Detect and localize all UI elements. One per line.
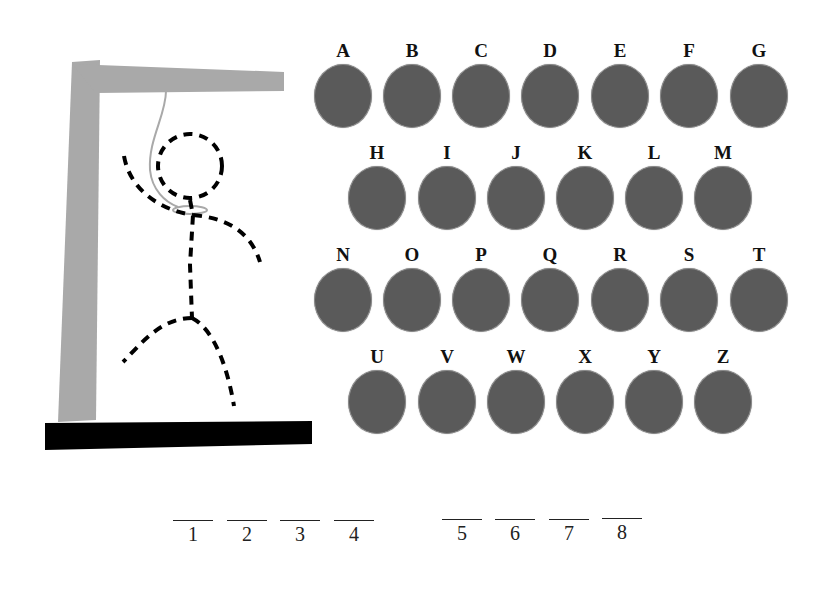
letter-key-ball[interactable] (730, 268, 788, 332)
letter-key-ball[interactable] (521, 268, 579, 332)
letter-key-y[interactable]: Y (625, 346, 683, 438)
letter-key-ball[interactable] (348, 166, 406, 230)
letter-key-label: A (314, 40, 372, 62)
letter-key-ball[interactable] (314, 64, 372, 128)
letter-key-ball[interactable] (348, 370, 406, 434)
letter-key-label: Q (521, 244, 579, 266)
letter-key-ball[interactable] (694, 166, 752, 230)
gallows-post (58, 60, 100, 422)
letter-key-label: V (418, 346, 476, 368)
letter-key-ball[interactable] (418, 370, 476, 434)
letter-key-d[interactable]: D (521, 40, 579, 132)
letter-key-label: X (556, 346, 614, 368)
letter-key-j[interactable]: J (487, 142, 545, 234)
letter-key-label: S (660, 244, 718, 266)
letter-key-ball[interactable] (487, 370, 545, 434)
letter-key-label: Y (625, 346, 683, 368)
letter-key-label: M (694, 142, 752, 164)
slot-underline (602, 518, 642, 519)
letter-key-ball[interactable] (625, 370, 683, 434)
letter-key-label: D (521, 40, 579, 62)
letter-key-ball[interactable] (383, 64, 441, 128)
letter-key-x[interactable]: X (556, 346, 614, 438)
letter-key-ball[interactable] (591, 268, 649, 332)
slot-number: 8 (602, 521, 642, 543)
letter-key-l[interactable]: L (625, 142, 683, 234)
slot-underline (227, 520, 267, 521)
letter-key-b[interactable]: B (383, 40, 441, 132)
slot-number: 5 (442, 522, 482, 544)
letter-key-label: G (730, 40, 788, 62)
letter-key-ball[interactable] (625, 166, 683, 230)
letter-key-ball[interactable] (556, 166, 614, 230)
letter-key-i[interactable]: I (418, 142, 476, 234)
letter-key-r[interactable]: R (591, 244, 649, 336)
letter-key-ball[interactable] (418, 166, 476, 230)
letter-key-q[interactable]: Q (521, 244, 579, 336)
letter-key-ball[interactable] (660, 64, 718, 128)
figure-right-leg (192, 318, 234, 406)
letter-key-label: Z (694, 346, 752, 368)
letter-key-g[interactable]: G (730, 40, 788, 132)
letter-key-n[interactable]: N (314, 244, 372, 336)
slot-underline (442, 519, 482, 520)
letter-key-z[interactable]: Z (694, 346, 752, 438)
letter-key-ball[interactable] (452, 268, 510, 332)
letter-key-a[interactable]: A (314, 40, 372, 132)
letter-key-label: U (348, 346, 406, 368)
letter-key-label: P (452, 244, 510, 266)
slot-underline (495, 519, 535, 520)
letter-key-m[interactable]: M (694, 142, 752, 234)
letter-key-u[interactable]: U (348, 346, 406, 438)
word-slot-2: 2 (227, 520, 267, 545)
letter-key-label: L (625, 142, 683, 164)
letter-key-ball[interactable] (383, 268, 441, 332)
letter-key-label: W (487, 346, 545, 368)
letter-key-ball[interactable] (660, 268, 718, 332)
letter-key-ball[interactable] (314, 268, 372, 332)
word-slot-5: 5 (442, 519, 482, 544)
slot-number: 7 (549, 522, 589, 544)
word-slot-3: 3 (280, 520, 320, 545)
letter-key-p[interactable]: P (452, 244, 510, 336)
letter-key-label: F (660, 40, 718, 62)
letter-key-label: I (418, 142, 476, 164)
letter-key-ball[interactable] (521, 64, 579, 128)
letter-key-s[interactable]: S (660, 244, 718, 336)
letter-key-o[interactable]: O (383, 244, 441, 336)
slot-number: 1 (173, 523, 213, 545)
letter-key-t[interactable]: T (730, 244, 788, 336)
letter-key-v[interactable]: V (418, 346, 476, 438)
letter-key-ball[interactable] (694, 370, 752, 434)
gallows-beam (72, 64, 284, 93)
slot-underline (549, 519, 589, 520)
letter-key-ball[interactable] (452, 64, 510, 128)
slot-underline (334, 520, 374, 521)
figure-left-leg (123, 318, 192, 362)
letter-key-label: E (591, 40, 649, 62)
letter-key-ball[interactable] (591, 64, 649, 128)
letter-key-label: H (348, 142, 406, 164)
figure-right-arm (193, 215, 260, 262)
slot-number: 3 (280, 523, 320, 545)
letter-key-ball[interactable] (730, 64, 788, 128)
word-slot-4: 4 (334, 520, 374, 545)
letter-key-e[interactable]: E (591, 40, 649, 132)
letter-key-ball[interactable] (556, 370, 614, 434)
slot-number: 6 (495, 522, 535, 544)
letter-key-label: T (730, 244, 788, 266)
letter-key-w[interactable]: W (487, 346, 545, 438)
letter-key-label: O (383, 244, 441, 266)
letter-key-c[interactable]: C (452, 40, 510, 132)
letter-key-label: B (383, 40, 441, 62)
letter-key-ball[interactable] (487, 166, 545, 230)
letter-key-h[interactable]: H (348, 142, 406, 234)
letter-key-k[interactable]: K (556, 142, 614, 234)
word-slot-1: 1 (173, 520, 213, 545)
figure-body (190, 200, 193, 318)
word-slot-6: 6 (495, 519, 535, 544)
slot-underline (280, 520, 320, 521)
letter-key-label: J (487, 142, 545, 164)
letter-key-f[interactable]: F (660, 40, 718, 132)
word-slot-8: 8 (602, 518, 642, 543)
